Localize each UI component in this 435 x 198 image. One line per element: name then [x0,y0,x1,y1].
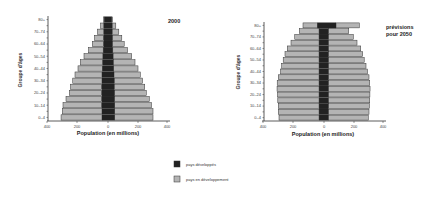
legend-label-developed: pays développés [186,162,216,167]
bar-developing-right [329,34,354,39]
bar-developed [317,23,336,29]
bar-row [62,108,153,114]
y-tick-label: 50–54 [34,54,46,59]
y-tick-labels: 0–410–1420–2430–3440–4450–5460–6470–7480… [34,17,48,120]
bar-developing-left [291,40,319,45]
y-tick-label: 60–64 [34,41,46,46]
y-tick-label: 20–24 [250,92,262,97]
bar-developing-left [287,46,319,51]
legend-label-developing: pays en développement [186,177,229,182]
bar-row [291,40,357,46]
bar-developed [319,74,328,80]
y-tick-label: 60–64 [250,46,262,51]
bar-developing-left [299,29,319,34]
bar-developed [319,40,328,46]
bar-developed [319,51,328,57]
bar-developed [319,28,328,34]
bar-developing-left [75,72,102,77]
x-tick-labels: 4002000200400 [260,121,387,129]
x-tick-label: 200 [135,124,142,129]
x-tick-labels: 4002000200400 [44,121,171,129]
bar-developing-right [113,54,132,59]
y-tick-label: 0–4 [38,115,45,120]
bar-developing-right [115,96,150,101]
bar-row [287,46,361,52]
bar-row [303,23,359,29]
bar-developed [104,35,113,41]
y-tick-label: 70–74 [250,34,262,39]
bar-row [92,41,124,47]
bar-row [73,78,143,84]
bar-developing-right [113,35,122,40]
bar-row [285,51,363,57]
bar-developing-left [73,78,102,83]
bar-developing-left [62,109,102,114]
bar-row [277,80,370,86]
y-tick-label: 10–14 [34,103,46,108]
bar-developing-left [95,35,104,40]
chart-title-2050-line1: prévisions [386,24,414,30]
pyramid-2000: 0–410–1420–2430–3440–4450–5460–6470–7480… [17,16,180,136]
bar-developing-right [115,109,153,114]
bar-developed [102,114,115,120]
bar-developed [104,29,112,35]
y-tick-label: 20–24 [34,90,46,95]
x-tick-label: 0 [323,124,326,129]
bar-developing-right [329,46,361,51]
bar-row [71,84,145,90]
y-tick-label: 0–4 [254,115,261,120]
bar-developed [102,102,115,108]
bar-developing-left [71,84,102,89]
bar-developed [102,78,114,84]
pyramid-2050: 0–410–1420–2430–3440–4450–5460–6470–7480… [235,22,414,137]
bar-developing-right [112,23,116,28]
bar-row [281,69,368,75]
bar-row [84,53,132,59]
x-tick-label: 400 [164,124,171,129]
bar-developing-left [69,90,101,95]
bar-developed [319,69,328,75]
bar-developed [102,84,115,90]
y-tick-label: 30–34 [250,80,262,85]
bar-developed [319,86,328,92]
y-tick-label: 70–74 [34,29,46,34]
bar-developed [319,80,328,86]
x-axis-label: Population (en millions) [77,130,140,136]
y-tick-label: 10–14 [250,103,262,108]
bar-developed [102,72,114,78]
bar-developing-right [114,78,142,83]
bar-row [95,35,122,41]
bar-developed [319,97,328,103]
bar-developing-left [278,104,319,109]
y-tick-label: 50–54 [250,57,262,62]
bar-developing-right [112,29,119,34]
y-tick-label: 80+ [254,23,261,28]
bar-developed [102,65,113,71]
bar-developing-left [61,115,102,120]
x-tick-label: 400 [260,124,267,129]
bar-developing-right [329,75,370,80]
bar-developed [102,90,115,96]
bar-row [278,74,369,80]
population-pyramids: 0–410–1420–2430–3440–4450–5460–6470–7480… [0,0,435,198]
bar-row [283,57,364,63]
bar-developing-right [329,40,358,45]
bar-developing-left [89,47,104,52]
bar-developing-right [329,92,370,97]
bar-row [279,115,368,121]
bar-developed [319,63,328,69]
bar-developing-right [114,66,138,71]
x-tick-label: 200 [74,124,81,129]
y-tick-label: 80+ [38,17,45,22]
bar-developed [103,59,114,65]
chart-title-2050-line2: pour 2050 [386,31,412,37]
bar-developing-left [78,66,102,71]
bar-developing-left [84,54,103,59]
bar-row [66,96,149,102]
bar-row [89,47,128,53]
bar-developing-left [282,63,319,68]
bar-developing-left [295,34,319,39]
bar-developing-left [278,98,319,103]
bar-developing-right [329,57,365,62]
legend-swatch-developed [174,161,180,167]
